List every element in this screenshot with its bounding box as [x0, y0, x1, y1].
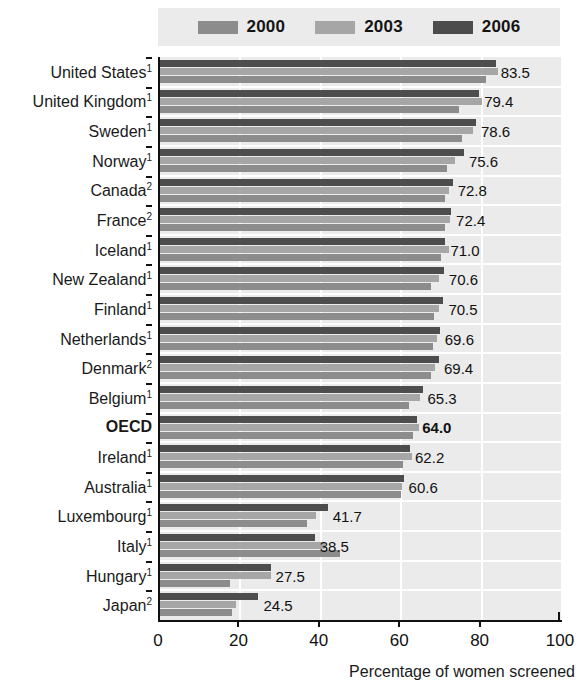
y-axis-tick — [146, 205, 152, 207]
bar-2006 — [160, 208, 451, 215]
category-label-text: Iceland — [95, 242, 147, 259]
bar-2006 — [160, 386, 423, 393]
bar-2006 — [160, 119, 476, 126]
footnote-marker: 1 — [146, 448, 152, 459]
bar-2006 — [160, 60, 496, 67]
bar-value-label: 75.6 — [469, 154, 498, 169]
category-label-japan: Japan2 — [0, 597, 152, 614]
bar-2000 — [160, 135, 462, 142]
y-axis-tick — [146, 264, 152, 266]
legend-item-2000: 2000 — [198, 17, 286, 37]
bar-group — [160, 561, 562, 591]
bar-value-label: 70.5 — [448, 302, 477, 317]
bar-2000 — [160, 165, 447, 172]
bar-group — [160, 590, 562, 620]
bar-2000 — [160, 520, 307, 527]
category-label-text: United States — [50, 64, 146, 81]
bar-value-label: 60.6 — [409, 480, 438, 495]
category-label-sweden: Sweden1 — [0, 123, 152, 140]
y-axis-tick — [146, 235, 152, 237]
legend-swatch-2006 — [433, 21, 473, 34]
footnote-marker: 2 — [146, 359, 152, 370]
footnote-marker: 2 — [146, 211, 152, 222]
bar-value-label: 38.5 — [320, 539, 349, 554]
bar-value-label: 41.7 — [333, 509, 362, 524]
footnote-marker: 2 — [146, 181, 152, 192]
y-axis-tick — [146, 442, 152, 444]
bar-2006 — [160, 564, 271, 571]
bar-value-label: 83.5 — [501, 65, 530, 80]
bar-2003 — [160, 187, 449, 194]
bar-group — [160, 472, 562, 502]
bar-2003 — [160, 127, 473, 134]
bar-2006 — [160, 327, 440, 334]
y-axis-tick — [146, 501, 152, 503]
y-axis-tick — [146, 176, 152, 178]
footnote-marker: 1 — [146, 152, 152, 163]
category-label-text: Denmark — [82, 360, 147, 377]
category-label-new-zealand: New Zealand1 — [0, 271, 152, 288]
y-axis-tick — [146, 472, 152, 474]
category-label-text: Norway — [92, 153, 146, 170]
legend-label-2006: 2006 — [482, 17, 521, 37]
y-axis-tick — [146, 413, 152, 415]
bar-2003 — [160, 572, 271, 579]
bar-value-label: 69.4 — [444, 361, 473, 376]
x-axis-title: Percentage of women screened — [0, 664, 575, 680]
x-axis-line — [158, 620, 562, 622]
x-axis-tick-40 — [318, 620, 320, 627]
bar-2000 — [160, 372, 431, 379]
category-label-text: Finland — [94, 301, 146, 318]
bar-group — [160, 146, 562, 176]
category-axis-labels: United States1United Kingdom1Sweden1Norw… — [0, 57, 152, 620]
footnote-marker: 1 — [146, 478, 152, 489]
chart-legend: 200020032006 — [158, 8, 560, 46]
category-label-hungary: Hungary1 — [0, 568, 152, 585]
footnote-marker: 1 — [146, 567, 152, 578]
category-label-text: Ireland — [98, 449, 147, 466]
footnote-marker: 1 — [146, 63, 152, 74]
bar-value-label: 72.4 — [456, 213, 485, 228]
bar-value-label: 24.5 — [263, 598, 292, 613]
bar-2003 — [160, 483, 402, 490]
bar-2000 — [160, 224, 445, 231]
bar-2003 — [160, 394, 420, 401]
bar-2006 — [160, 504, 328, 511]
legend-label-2003: 2003 — [364, 17, 403, 37]
y-axis-tick — [146, 590, 152, 592]
bar-2003 — [160, 216, 450, 223]
category-label-text: United Kingdom — [33, 94, 147, 111]
bar-2000 — [160, 254, 441, 261]
bar-value-label: 62.2 — [415, 450, 444, 465]
bar-2006 — [160, 238, 445, 245]
bar-value-label: 79.4 — [484, 94, 513, 109]
x-axis-tick-20 — [237, 620, 239, 627]
y-axis-tick — [146, 383, 152, 385]
category-label-iceland: Iceland1 — [0, 242, 152, 259]
bar-2003 — [160, 305, 439, 312]
x-axis-tick-60 — [398, 620, 400, 627]
bar-2003 — [160, 275, 439, 282]
bar-2003 — [160, 335, 437, 342]
x-axis-tick-label-40: 40 — [296, 632, 342, 649]
y-axis-tick — [146, 294, 152, 296]
bar-group — [160, 176, 562, 206]
category-label-united-states: United States1 — [0, 64, 152, 81]
category-label-united-kingdom: United Kingdom1 — [0, 93, 152, 110]
bar-2003 — [160, 601, 236, 608]
bar-value-label: 70.6 — [449, 272, 478, 287]
category-label-netherlands: Netherlands1 — [0, 331, 152, 348]
category-label-text: New Zealand — [52, 272, 146, 289]
grouped-bar-chart: 200020032006 United States1United Kingdo… — [0, 0, 585, 698]
bar-2000 — [160, 580, 230, 587]
bar-2003 — [160, 364, 435, 371]
x-axis-tick-80 — [479, 620, 481, 627]
x-axis-tick-label-100: 100 — [537, 632, 583, 649]
bar-2006 — [160, 593, 258, 600]
bar-2000 — [160, 461, 403, 468]
bar-group — [160, 442, 562, 472]
category-label-text: Australia — [84, 479, 146, 496]
bar-2000 — [160, 313, 434, 320]
x-axis-tick-label-60: 60 — [376, 632, 422, 649]
bar-2006 — [160, 179, 453, 186]
